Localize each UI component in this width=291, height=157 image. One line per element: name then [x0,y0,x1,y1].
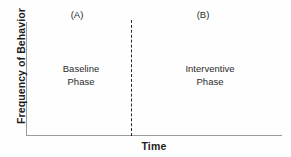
x-axis-label: Time [26,140,282,152]
phase-label-interventive-line-1: Interventive [155,62,265,75]
phase-divider-dashed-line [131,20,132,136]
phase-label-baseline: Baseline Phase [36,62,126,88]
phase-label-baseline-line-1: Baseline [36,62,126,75]
x-axis-line [26,135,282,136]
phase-header-a: (A) [57,9,97,20]
y-axis-label: Frequency of Behavior [15,3,27,129]
phase-label-baseline-line-2: Phase [36,75,126,88]
phase-header-b: (B) [183,9,223,20]
phase-label-interventive: Interventive Phase [155,62,265,88]
ab-design-figure: Frequency of Behavior Time (A) (B) Basel… [0,0,291,157]
phase-label-interventive-line-2: Phase [155,75,265,88]
